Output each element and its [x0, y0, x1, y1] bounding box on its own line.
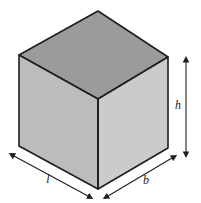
cuboid-diagram-canvas: h l b: [0, 0, 201, 203]
cuboid-figure: h l b: [0, 0, 201, 203]
breadth-label: b: [143, 173, 149, 187]
length-label: l: [46, 172, 50, 186]
height-label: h: [175, 98, 181, 112]
